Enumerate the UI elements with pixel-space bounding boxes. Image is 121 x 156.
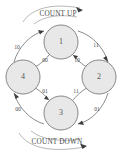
state-node-3[interactable]: 3 xyxy=(44,96,78,130)
edge-label-1-4: 00 xyxy=(42,57,48,63)
edge-label-1-2: 11 xyxy=(93,42,99,48)
state-diagram-svg: 1 2 3 4 10 11 01 00 00 10 01 11 COUNT UP xyxy=(0,0,121,156)
state-diagram-canvas: 1 2 3 4 10 11 01 00 00 10 01 11 COUNT UP xyxy=(0,0,121,156)
state-label-4: 4 xyxy=(21,72,25,81)
state-node-4[interactable]: 4 xyxy=(6,60,40,94)
edge-label-4-3: 01 xyxy=(42,88,48,94)
transition-2-to-3 xyxy=(78,93,108,125)
arrowhead-3-4 xyxy=(14,93,19,99)
edge-label-3-4: 00 xyxy=(15,106,21,112)
banner-count-up: COUNT UP xyxy=(23,6,83,24)
banner-label-down: COUNT DOWN xyxy=(32,138,83,146)
edge-path-2-3 xyxy=(78,93,108,124)
arrowhead-4-3 xyxy=(44,96,49,101)
edge-label-2-1: 10 xyxy=(74,57,80,63)
state-node-1[interactable]: 1 xyxy=(44,25,78,59)
edge-label-3-2: 11 xyxy=(73,88,79,94)
state-node-2[interactable]: 2 xyxy=(82,60,116,94)
edge-label-4-1: 10 xyxy=(14,44,20,50)
state-label-2: 2 xyxy=(97,72,101,81)
state-label-3: 3 xyxy=(59,108,63,117)
edge-label-2-3: 01 xyxy=(94,106,100,112)
banner-label-up: COUNT UP xyxy=(39,10,76,18)
banner-count-down: COUNT DOWN xyxy=(19,131,87,149)
state-label-1: 1 xyxy=(59,37,63,46)
